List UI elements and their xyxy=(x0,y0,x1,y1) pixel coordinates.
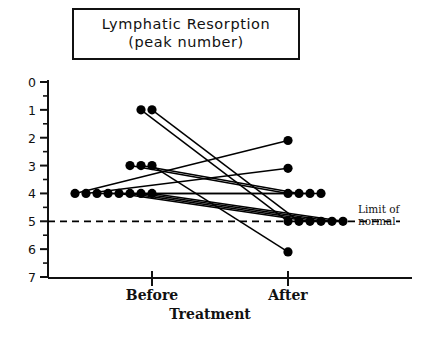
y-tick-label: 5 xyxy=(16,214,36,229)
data-point-before xyxy=(125,161,134,170)
data-point-after xyxy=(283,136,292,145)
data-point-before xyxy=(70,189,79,198)
data-point-after xyxy=(283,189,292,198)
data-point-after xyxy=(305,217,314,226)
y-tick-label: 0 xyxy=(16,75,36,90)
data-point-after xyxy=(294,189,303,198)
data-point-after xyxy=(327,217,336,226)
data-point-before xyxy=(114,189,123,198)
y-tick-label: 4 xyxy=(16,186,36,201)
data-point-before xyxy=(136,189,145,198)
data-point-after xyxy=(283,164,292,173)
y-tick-marks xyxy=(40,82,48,277)
reference-line-label: Limit of normal xyxy=(358,203,399,228)
axes-group xyxy=(48,80,412,278)
subject-line xyxy=(141,193,332,221)
data-point-before xyxy=(136,105,145,114)
data-point-after xyxy=(338,217,347,226)
data-point-before xyxy=(92,189,101,198)
data-point-after xyxy=(316,217,325,226)
chart-root: Lymphatic Resorption (peak number) 76543… xyxy=(0,0,435,343)
data-point-after xyxy=(316,189,325,198)
limit-label-line2: normal xyxy=(358,215,399,227)
y-tick-label: 7 xyxy=(16,270,36,285)
data-point-after xyxy=(283,247,292,256)
data-point-markers xyxy=(70,105,347,256)
x-axis-title: Treatment xyxy=(169,306,251,322)
y-tick-label: 3 xyxy=(16,158,36,173)
subject-line xyxy=(130,193,321,221)
data-point-before xyxy=(147,161,156,170)
data-point-before xyxy=(103,189,112,198)
data-point-before xyxy=(147,189,156,198)
plot-area: 76543210 xyxy=(0,0,435,343)
data-point-after xyxy=(283,217,292,226)
data-point-before xyxy=(81,189,90,198)
chart-svg xyxy=(0,0,435,343)
data-point-after xyxy=(294,217,303,226)
data-point-before xyxy=(147,105,156,114)
subject-line xyxy=(152,193,343,221)
y-tick-label: 2 xyxy=(16,130,36,145)
data-point-before xyxy=(136,161,145,170)
data-point-after xyxy=(305,189,314,198)
y-tick-label: 1 xyxy=(16,102,36,117)
subject-connector-lines xyxy=(75,110,343,252)
x-axis-label-after: After xyxy=(268,287,307,303)
y-tick-label: 6 xyxy=(16,242,36,257)
limit-label-line1: Limit of xyxy=(358,203,399,215)
data-point-before xyxy=(125,189,134,198)
x-axis-label-before: Before xyxy=(126,287,178,303)
